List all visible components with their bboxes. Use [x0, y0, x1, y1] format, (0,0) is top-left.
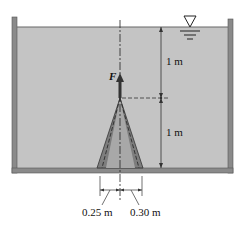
tank-right-wall [228, 19, 233, 173]
base-dimension-lines [100, 176, 142, 205]
tank-left-wall [12, 17, 17, 173]
diagram-canvas [0, 0, 245, 230]
right-base-radius-label: 0.30 m [130, 206, 161, 218]
left-base-radius-label: 0.25 m [82, 206, 113, 218]
upper-depth-label: 1 m [166, 55, 183, 67]
force-label: F [109, 70, 116, 82]
lower-depth-label: 1 m [166, 126, 183, 138]
tank-floor [12, 168, 233, 173]
